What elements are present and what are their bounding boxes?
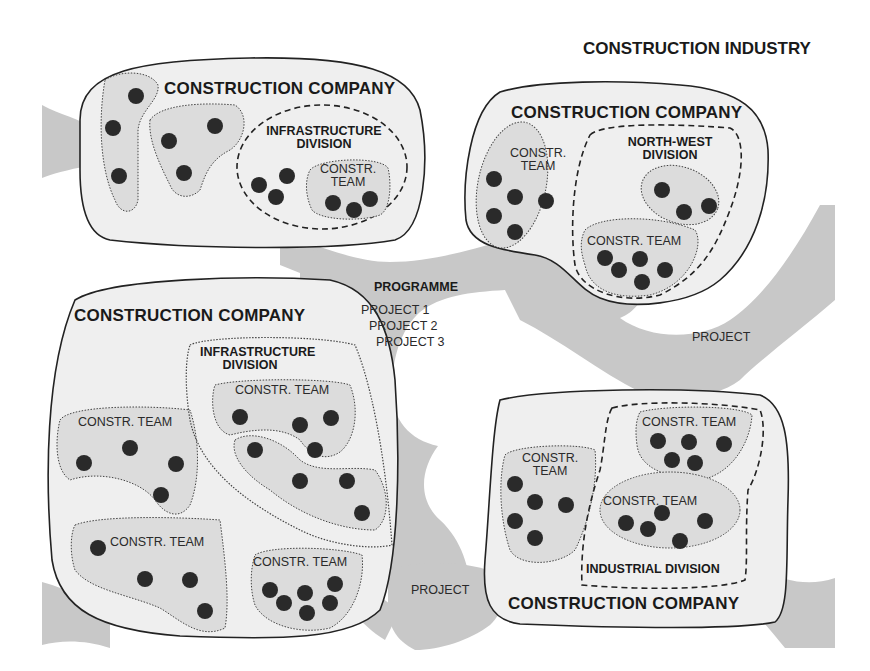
company-bottom-left	[48, 278, 398, 638]
team-line2: TEAM	[508, 160, 568, 173]
programme-project-2: PROJECT 2	[369, 320, 438, 333]
team-label-industrial-2: CONSTR. TEAM	[603, 495, 697, 508]
industry-title: CONSTRUCTION INDUSTRY	[583, 40, 811, 58]
company-label-bottom-left: CONSTRUCTION COMPANY	[74, 307, 305, 325]
programme-project-1: PROJECT 1	[361, 304, 430, 317]
division-label-infrastructure-bottom: INFRASTRUCTURE DIVISION	[200, 346, 300, 372]
team-label-bottom-left-1: CONSTR. TEAM	[78, 416, 172, 429]
team-label-bottom-right-left: CONSTR. TEAM	[520, 452, 580, 478]
division-label-infrastructure-top: INFRASTRUCTURE DIVISION	[264, 125, 384, 151]
team-line2: TEAM	[318, 176, 378, 189]
team-label-industrial-1: CONSTR. TEAM	[642, 416, 736, 429]
company-label-top-left: CONSTRUCTION COMPANY	[164, 80, 395, 98]
division-label-north-west: NORTH-WEST DIVISION	[625, 136, 715, 162]
team-label-top-left: CONSTR. TEAM	[318, 163, 378, 189]
division-line2: DIVISION	[264, 138, 384, 151]
construction-industry-diagram: CONSTRUCTION INDUSTRY CONSTRUCTION COMPA…	[0, 0, 870, 671]
division-line2: DIVISION	[200, 359, 300, 372]
project-label-bottom: PROJECT	[411, 584, 469, 597]
division-line2: DIVISION	[625, 149, 715, 162]
team-line2: TEAM	[520, 465, 580, 478]
team-label-north-west: CONSTR. TEAM	[587, 235, 681, 248]
company-bottom-right	[484, 390, 788, 628]
programme-label: PROGRAMME	[374, 281, 458, 294]
project-label-right: PROJECT	[692, 331, 750, 344]
team-label-bottom-left-3: CONSTR. TEAM	[253, 556, 347, 569]
company-label-top-right: CONSTRUCTION COMPANY	[511, 104, 742, 122]
division-label-industrial: INDUSTRIAL DIVISION	[586, 563, 720, 576]
team-label-bottom-left-2: CONSTR. TEAM	[110, 536, 204, 549]
team-label-top-right: CONSTR. TEAM	[508, 147, 568, 173]
company-label-bottom-right: CONSTRUCTION COMPANY	[508, 595, 739, 613]
programme-project-3: PROJECT 3	[376, 336, 445, 349]
team-label-infra-bottom: CONSTR. TEAM	[235, 384, 329, 397]
